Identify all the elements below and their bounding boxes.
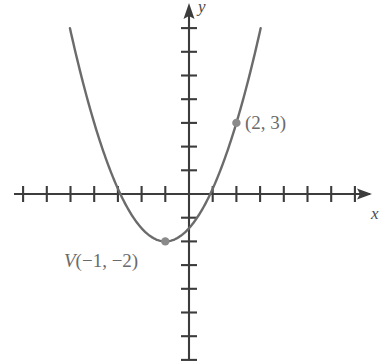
point-2-3-marker [232, 119, 240, 127]
vertex-label-coords: (−1, −2) [76, 250, 139, 271]
vertex-point-marker [161, 237, 169, 245]
point-annotation-label: (2, 3) [245, 113, 286, 132]
x-axis-label: x [371, 205, 379, 222]
vertex-annotation-label: V(−1, −2) [64, 251, 138, 270]
parabola-curve [70, 28, 261, 241]
graph-canvas [0, 0, 391, 363]
parabola-figure: x y V(−1, −2) (2, 3) [0, 0, 391, 363]
vertex-label-prefix: V [64, 250, 76, 271]
x-axis-group [14, 186, 372, 202]
y-axis-label: y [198, 0, 206, 15]
y-axis-group [181, 3, 197, 360]
